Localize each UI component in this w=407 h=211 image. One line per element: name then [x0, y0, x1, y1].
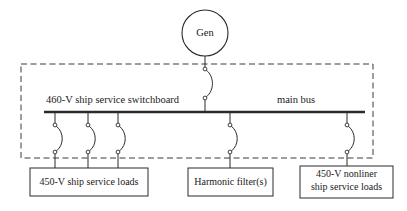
main-bus-label: main bus: [277, 94, 315, 105]
breaker-arc-icon: [90, 126, 96, 150]
breaker-arc-icon: [349, 126, 355, 150]
breaker-arc-icon: [120, 126, 126, 150]
generator-label: Gen: [196, 27, 214, 38]
breaker-feeder-1b: [86, 123, 95, 154]
switchboard-label: 460-V ship service switchboard: [46, 94, 180, 105]
load-box-ship-service-loads-label: 450-V ship service loads: [40, 176, 139, 187]
breaker-feeder-3: [345, 123, 354, 154]
breaker-arc-icon: [232, 126, 238, 150]
diagram-canvas: Gen 460-V ship service switchboard main …: [0, 0, 407, 211]
breaker-arc-icon: [57, 126, 63, 150]
breaker-feeder-2: [228, 123, 237, 154]
load-box-nonlinear-loads-label-line1: 450-V nonliner: [316, 168, 378, 179]
breaker-feeder-1c: [116, 123, 125, 154]
breaker-generator: [203, 67, 212, 100]
breaker-arc-icon: [207, 70, 213, 96]
breaker-feeder-1a: [53, 123, 62, 154]
single-line-diagram: Gen 460-V ship service switchboard main …: [0, 0, 407, 211]
load-box-harmonic-filters-label: Harmonic filter(s): [194, 176, 266, 188]
load-box-nonlinear-loads-label-line2: ship service loads: [311, 181, 382, 192]
